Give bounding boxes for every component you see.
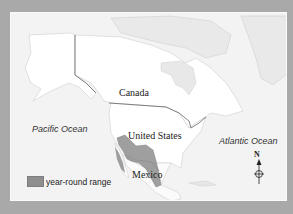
map-frame: Canada United States Mexico Pacific Ocea… (10, 12, 287, 201)
label-canada: Canada (119, 87, 149, 98)
label-mexico: Mexico (132, 169, 163, 180)
label-atlantic-ocean: Atlantic Ocean (219, 136, 278, 146)
label-united-states: United States (128, 130, 182, 141)
compass-icon (252, 150, 266, 186)
compass-rose: N (252, 150, 266, 186)
legend: year-round range (27, 176, 111, 187)
legend-swatch (27, 176, 44, 187)
legend-label: year-round range (46, 177, 111, 187)
label-pacific-ocean: Pacific Ocean (32, 124, 88, 134)
